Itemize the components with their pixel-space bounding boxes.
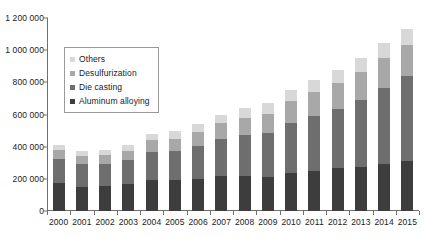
x-axis-tick-label: 2006 [188, 217, 207, 227]
bar-stack [76, 151, 88, 211]
bar-segment [378, 58, 390, 88]
legend-swatch-icon [70, 85, 75, 90]
y-axis-tick-label: 200 000 [0, 174, 44, 184]
bar-segment [76, 164, 88, 187]
bar-segment [401, 161, 413, 211]
x-axis-tick-mark [187, 211, 188, 215]
bar-stack [192, 124, 204, 211]
x-axis-tick-label: 2008 [235, 217, 254, 227]
bar-segment [401, 29, 413, 45]
bar-stack [239, 108, 251, 211]
bar-segment [215, 139, 227, 176]
x-axis-tick-label: 2011 [305, 217, 324, 227]
y-axis-tick-label: 800 000 [0, 77, 44, 87]
x-axis-tick-mark [140, 211, 141, 215]
x-axis-tick-label: 2004 [142, 217, 161, 227]
legend-swatch-icon [70, 57, 75, 62]
y-axis-tick-label: 0 [0, 206, 44, 216]
bar-segment [169, 131, 181, 138]
x-axis-tick-mark [233, 211, 234, 215]
x-axis-tick-label: 2000 [49, 217, 68, 227]
x-axis-tick-label: 2013 [351, 217, 370, 227]
chart-legend: OthersDesulfurizationDie castingAluminum… [64, 47, 159, 113]
bar-segment [355, 100, 367, 167]
bar-segment [355, 58, 367, 72]
x-axis-tick-label: 2009 [258, 217, 277, 227]
bar-segment [169, 139, 181, 151]
bar-segment [192, 146, 204, 179]
bar-segment [122, 184, 134, 211]
bar-segment [332, 70, 344, 83]
y-axis-tick-label: 600 000 [0, 110, 44, 120]
bar-stack [99, 150, 111, 211]
bar-segment [378, 88, 390, 164]
bar-segment [308, 92, 320, 116]
bar-segment [239, 118, 251, 136]
x-axis-tick-mark [349, 211, 350, 215]
bar-segment [99, 155, 111, 164]
x-axis-tick-label: 2015 [398, 217, 417, 227]
bar-segment [122, 151, 134, 161]
x-axis-tick-mark [303, 211, 304, 215]
x-axis-tick-mark [47, 211, 48, 215]
bar-segment [239, 176, 251, 211]
bar-segment [262, 103, 274, 113]
legend-item: Desulfurization [70, 66, 150, 80]
y-axis-tick-label: 400 000 [0, 142, 44, 152]
bar-segment [122, 160, 134, 184]
x-axis-tick-mark [256, 211, 257, 215]
bar-segment [146, 140, 158, 151]
bar-stack [215, 115, 227, 211]
bar-stack [378, 43, 390, 211]
stacked-bar-chart: 0200 000400 000600 000800 0001 000 0001 … [0, 0, 424, 239]
x-axis-tick-mark [70, 211, 71, 215]
x-axis-tick-label: 2010 [281, 217, 300, 227]
bar-segment [146, 152, 158, 180]
bar-segment [378, 164, 390, 211]
x-axis-tick-label: 2002 [95, 217, 114, 227]
x-axis-tick-mark [117, 211, 118, 215]
x-axis-tick-mark [163, 211, 164, 215]
bar-segment [53, 183, 65, 211]
bar-segment [192, 179, 204, 211]
bar-segment [332, 83, 344, 109]
bar-segment [401, 45, 413, 76]
legend-item-label: Die casting [79, 82, 122, 92]
bar-segment [53, 150, 65, 159]
x-axis-tick-mark [326, 211, 327, 215]
x-axis-tick-mark [280, 211, 281, 215]
legend-item: Die casting [70, 80, 150, 94]
bar-segment [53, 159, 65, 183]
x-axis-tick-mark [94, 211, 95, 215]
bar-stack [53, 145, 65, 211]
legend-item: Others [70, 52, 150, 66]
legend-swatch-icon [70, 71, 75, 76]
bar-segment [262, 177, 274, 211]
bar-segment [192, 132, 204, 146]
bar-stack [169, 131, 181, 211]
bar-segment [285, 101, 297, 124]
bar-segment [76, 156, 88, 165]
bar-segment [192, 124, 204, 132]
bar-stack [355, 58, 367, 211]
bar-stack [262, 103, 274, 211]
y-axis-tick-label: 1 200 000 [0, 13, 44, 23]
bar-segment [262, 114, 274, 133]
bar-segment [76, 187, 88, 211]
x-axis-tick-label: 2003 [119, 217, 138, 227]
legend-item-label: Others [79, 54, 105, 64]
bar-segment [285, 90, 297, 101]
bar-stack [285, 90, 297, 211]
bar-segment [308, 80, 320, 92]
bar-segment [215, 115, 227, 124]
bar-segment [169, 180, 181, 211]
x-axis-tick-mark [373, 211, 374, 215]
bar-segment [332, 168, 344, 211]
bar-segment [355, 167, 367, 211]
x-axis-tick-mark [419, 211, 420, 215]
x-axis-tick-label: 2001 [72, 217, 91, 227]
bar-segment [146, 180, 158, 211]
bar-segment [99, 186, 111, 211]
bar-segment [169, 151, 181, 180]
legend-swatch-icon [70, 99, 75, 104]
